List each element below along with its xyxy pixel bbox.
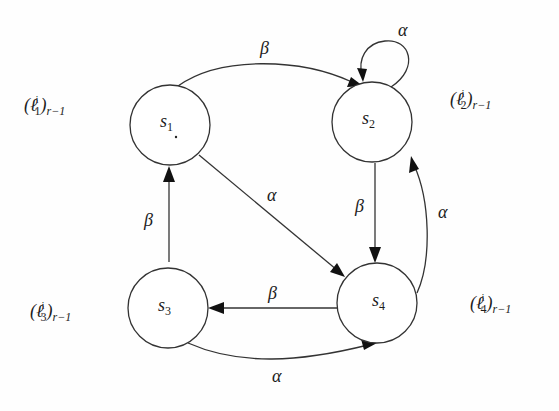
arrowhead-s2-s4 xyxy=(369,247,381,263)
state-graph: s1 s2 s3 s4 β α α β α β β α (ℓi1)r−1 (ℓi… xyxy=(0,0,559,411)
annotation-s2: (ℓi2)r−1 xyxy=(450,87,491,112)
edge-label-s2-s4: β xyxy=(354,196,364,216)
edge-label-s3-s4: α xyxy=(272,366,282,386)
arrowhead-s4-s3 xyxy=(208,302,224,314)
edge-label-s3-s1: β xyxy=(143,210,153,230)
edge-s1-to-s4 xyxy=(199,155,337,270)
edge-label-s1-s2: β xyxy=(259,38,269,58)
edge-s3-to-s4 xyxy=(188,343,368,359)
arrowhead-s1-s4 xyxy=(330,263,345,277)
edge-s1-to-s2 xyxy=(178,64,352,86)
edge-s2-self-loop xyxy=(361,41,409,87)
s1-center-dot xyxy=(175,136,177,138)
annotation-s3: (ℓi3)r−1 xyxy=(30,299,71,324)
edge-label-s2-loop: α xyxy=(398,20,408,40)
edge-label-s4-s2: α xyxy=(438,202,448,222)
diagram-canvas: s1 s2 s3 s4 β α α β α β β α (ℓi1)r−1 (ℓi… xyxy=(0,0,559,411)
arrowhead-s3-s1 xyxy=(163,166,175,182)
annotation-s4: (ℓi4)r−1 xyxy=(470,291,511,316)
edge-label-s1-s4: α xyxy=(267,185,277,205)
arrowhead-s2-loop xyxy=(357,68,367,82)
edge-label-s4-s3: β xyxy=(267,283,277,303)
arrowhead-s4-s2 xyxy=(409,156,419,173)
annotation-s1: (ℓi1)r−1 xyxy=(24,93,65,118)
edge-s4-to-s2 xyxy=(414,165,427,293)
